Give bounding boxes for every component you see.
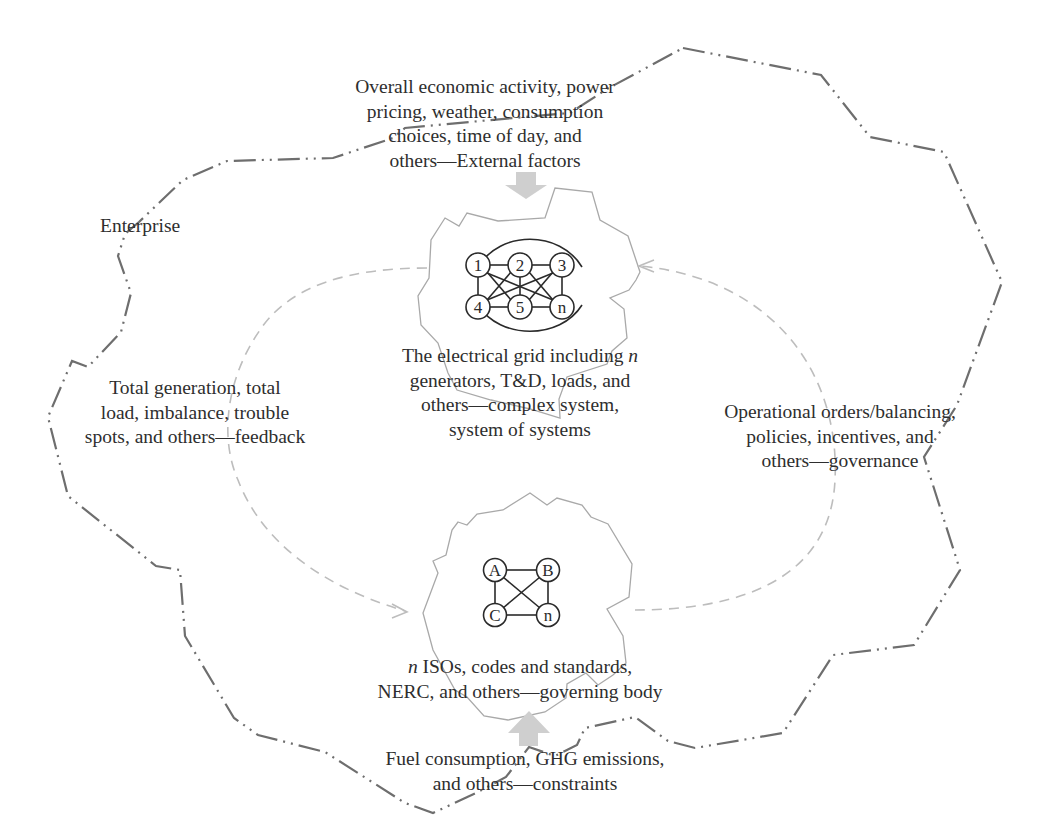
node-2-label: 2 — [516, 256, 525, 275]
enterprise-label: Enterprise — [100, 214, 180, 239]
node-4-label: 4 — [474, 298, 483, 317]
feedback-arrowhead — [392, 604, 407, 618]
node-B-label: B — [542, 561, 553, 580]
node-5-label: 5 — [516, 298, 525, 317]
external-factors-label: Overall economic activity, power pricing… — [290, 75, 680, 173]
external-factors-line: pricing, weather, consumption — [290, 100, 680, 125]
governing-body-italic-n: n — [408, 656, 418, 677]
grid-line: others—complex system, — [360, 393, 680, 418]
feedback-line: Total generation, total — [60, 376, 330, 401]
grid-line-prefix: The electrical grid including — [402, 345, 628, 366]
node-1-label: 1 — [474, 256, 483, 275]
grid-description-label: The electrical grid including n generato… — [360, 344, 680, 442]
constraints-input-arrow — [508, 711, 550, 746]
node-n-label: n — [558, 298, 567, 317]
external-factors-line: Overall economic activity, power — [290, 75, 680, 100]
feedback-line: spots, and others—feedback — [60, 425, 330, 450]
feedback-label: Total generation, total load, imbalance,… — [60, 376, 330, 450]
governance-label: Operational orders/balancing, policies, … — [690, 400, 990, 474]
external-factors-line: others—External factors — [290, 149, 680, 174]
node-n2-label: n — [544, 606, 553, 625]
governance-line: Operational orders/balancing, — [690, 400, 990, 425]
grid-line: generators, T&D, loads, and — [360, 369, 680, 394]
governing-body-line-rest: ISOs, codes and standards, — [418, 656, 632, 677]
constraints-label: Fuel consumption, GHG emissions, and oth… — [360, 747, 690, 796]
constraints-line: and others—constraints — [360, 772, 690, 797]
governance-line: policies, incentives, and — [690, 425, 990, 450]
node-A-label: A — [489, 561, 502, 580]
constraints-line: Fuel consumption, GHG emissions, — [360, 747, 690, 772]
node-3-label: 3 — [558, 256, 567, 275]
grid-line: system of systems — [360, 418, 680, 443]
feedback-line: load, imbalance, trouble — [60, 401, 330, 426]
governance-line: others—governance — [690, 449, 990, 474]
governing-body-line: NERC, and others—governing body — [355, 680, 685, 705]
external-input-arrow — [505, 172, 547, 199]
node-C-label: C — [489, 606, 500, 625]
external-factors-line: choices, time of day, and — [290, 124, 680, 149]
grid-line-italic-n: n — [628, 345, 638, 366]
governing-body-label: n ISOs, codes and standards, NERC, and o… — [355, 655, 685, 704]
